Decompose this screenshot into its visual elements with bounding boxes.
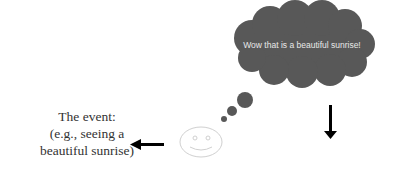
- event-label: The event: (e.g., seeing a beautiful sun…: [22, 108, 152, 159]
- event-label-line1: The event:: [22, 108, 152, 125]
- thought-bubble-small: [221, 116, 227, 122]
- smiley-face-icon: [180, 127, 222, 157]
- event-label-line3: beautiful sunrise): [22, 142, 152, 159]
- thought-bubble-medium: [227, 106, 237, 116]
- arrow-down-icon: [324, 105, 337, 139]
- thought-bubble-text: Wow that is a beautiful sunrise!: [240, 40, 364, 51]
- thought-bubble-large: [237, 92, 253, 108]
- event-label-line2: (e.g., seeing a: [22, 125, 152, 142]
